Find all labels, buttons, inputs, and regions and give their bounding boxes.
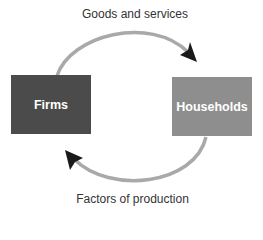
factors-arrowhead-icon	[65, 150, 83, 170]
firms-label: Firms	[34, 98, 68, 112]
factors-flow-arrow	[74, 137, 206, 181]
firms-node: Firms	[11, 75, 91, 134]
households-node: Households	[172, 77, 252, 136]
households-label: Households	[176, 100, 248, 114]
goods-flow-arrow	[57, 33, 188, 76]
goods-arrowhead-icon	[180, 42, 197, 62]
factors-of-production-label: Factors of production	[70, 192, 195, 206]
